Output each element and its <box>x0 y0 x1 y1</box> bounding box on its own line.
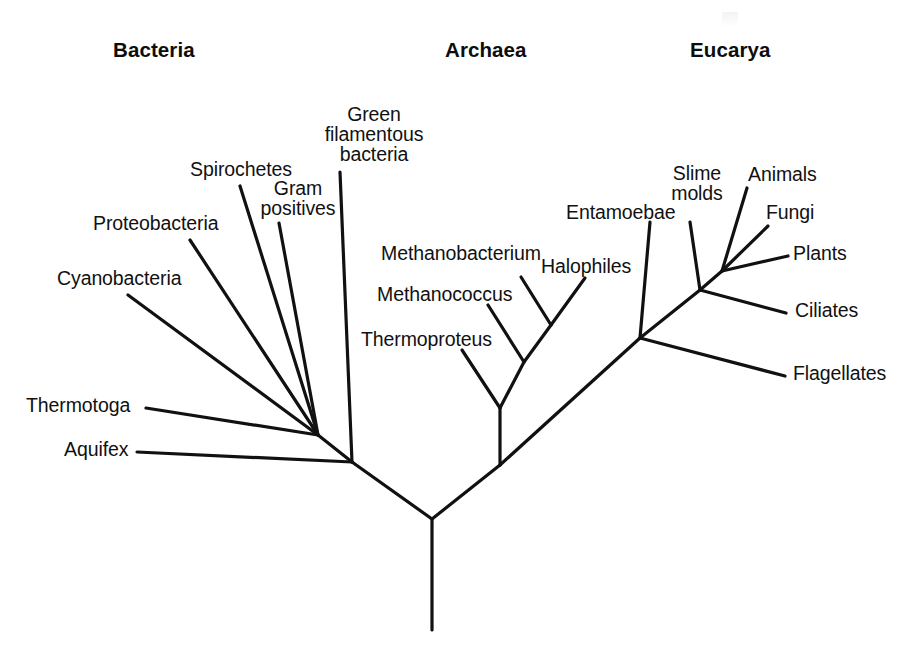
branch-root-to-archaea-eucarya <box>432 465 500 519</box>
taxon-label-entamoebae: Entamoebae <box>566 202 676 222</box>
taxon-label-thermoproteus: Thermoproteus <box>361 329 492 349</box>
taxon-label-animals: Animals <box>748 164 817 184</box>
branch-bacteria-base-to-fan <box>318 435 352 462</box>
taxon-label-fungi: Fungi <box>766 202 814 222</box>
domain-header-bacteria: Bacteria <box>113 38 195 62</box>
tree-branches <box>0 0 919 649</box>
taxon-label-methanobacterium: Methanobacterium <box>381 243 541 263</box>
branch-halophiles <box>551 278 585 325</box>
taxon-label-cyanobacteria: Cyanobacteria <box>57 268 181 288</box>
domain-header-archaea: Archaea <box>445 38 527 62</box>
branch-green-filamentous-bacteria <box>340 172 352 462</box>
taxon-label-thermotoga: Thermotoga <box>26 395 130 415</box>
branch-entamoebae <box>640 222 650 338</box>
taxon-label-ciliates: Ciliates <box>795 300 858 320</box>
taxon-label-plants: Plants <box>793 243 847 263</box>
branch-root-to-bacteria <box>352 462 432 519</box>
branch-cyanobacteria <box>128 295 318 435</box>
taxon-label-halophiles: Halophiles <box>541 256 631 276</box>
domain-header-eucarya: Eucarya <box>690 38 770 62</box>
branch-archaea-internal-2 <box>524 325 551 362</box>
branch-slime-molds <box>690 222 700 290</box>
branch-eucarya-mid-to-crown <box>700 271 722 290</box>
taxon-label-flagellates: Flagellates <box>793 363 886 383</box>
branch-methanobacterium <box>521 277 551 325</box>
taxon-label-methanococcus: Methanococcus <box>377 284 512 304</box>
taxon-label-slime-molds: Slime molds <box>664 163 730 203</box>
branch-archaea-internal-1 <box>500 362 524 408</box>
branch-thermotoga <box>146 408 318 435</box>
branch-thermoproteus <box>462 350 500 408</box>
taxon-label-gram-positives: Gram positives <box>256 178 340 218</box>
taxon-label-spirochetes: Spirochetes <box>190 159 292 179</box>
branch-aquifex <box>137 452 352 462</box>
taxon-label-proteobacteria: Proteobacteria <box>93 213 218 233</box>
branch-flagellates <box>640 338 785 376</box>
taxon-label-green-filamentous-bacteria: Green filamentous bacteria <box>320 104 428 164</box>
branch-ciliates <box>700 290 786 313</box>
taxon-label-aquifex: Aquifex <box>64 439 128 459</box>
branch-eucarya-base-to-mid <box>640 290 700 338</box>
branch-methanococcus <box>488 305 524 362</box>
scan-artifact <box>722 12 738 34</box>
phylogenetic-tree-figure: Bacteria Archaea Eucarya Cyanobacteria P… <box>0 0 919 649</box>
